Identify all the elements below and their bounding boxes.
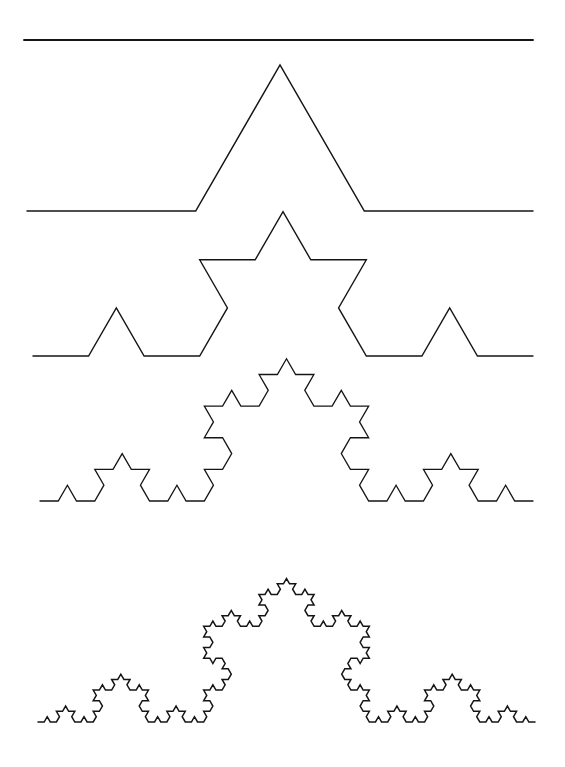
koch-figure [0,0,565,767]
koch-curve-canvas [0,0,565,767]
figure-background [0,0,565,767]
